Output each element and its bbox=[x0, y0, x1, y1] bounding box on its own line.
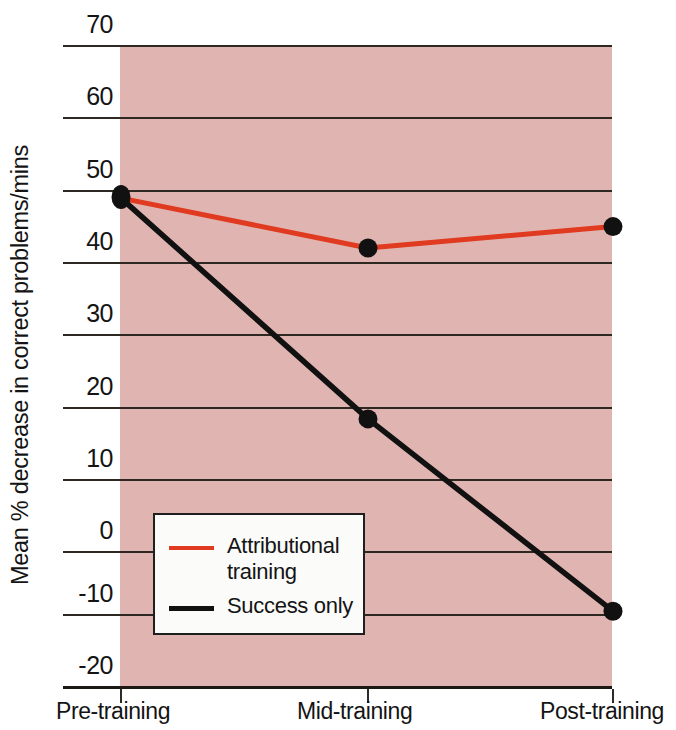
data-point-attributional-mid bbox=[359, 239, 378, 258]
data-point-success-mid bbox=[359, 409, 378, 428]
data-point-pre-training-shared bbox=[112, 185, 131, 209]
legend-entry-attributional-training: Attributional training bbox=[169, 533, 339, 585]
plot-area: Pre-training Mid-training Post-training … bbox=[0, 0, 676, 730]
x-tick-label-pre-training: Pre-training bbox=[56, 700, 170, 723]
legend-label-attributional-training: Attributional training bbox=[227, 533, 339, 585]
legend-label-success-only: Success only bbox=[227, 593, 353, 619]
legend-entry-success-only: Success only bbox=[169, 593, 353, 619]
x-tick-label-post-training: Post-training bbox=[540, 700, 664, 723]
red-line-swatch-icon bbox=[169, 546, 214, 550]
line-chart: Mean % decrease in correct problems/mins… bbox=[0, 0, 676, 730]
black-line-swatch-icon bbox=[169, 606, 214, 611]
x-tick-label-mid-training: Mid-training bbox=[297, 700, 412, 723]
legend: Attributional training Success only bbox=[153, 513, 365, 635]
data-point-attributional-post bbox=[604, 217, 623, 236]
data-point-success-post bbox=[604, 602, 623, 621]
